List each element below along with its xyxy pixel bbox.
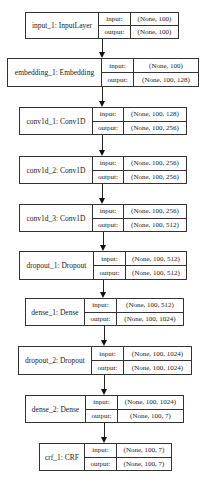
arrowhead-icon	[101, 340, 107, 346]
node-conv1d-1: conv1d_1: Conv1D input:(None, 100, 128) …	[19, 107, 187, 135]
arrowhead-icon	[99, 150, 105, 156]
output-label: output:	[93, 171, 124, 184]
output-label: output:	[85, 458, 117, 471]
output-shape: (None, 100, 512)	[124, 219, 186, 232]
input-shape: (None, 100)	[131, 13, 178, 25]
output-label: output:	[94, 266, 126, 279]
output-label: output:	[86, 410, 118, 423]
input-label: input:	[93, 205, 124, 218]
edge-line	[104, 423, 105, 437]
input-shape: (None, 100, 512)	[126, 252, 186, 265]
node-embedding-1: embedding_1: Embedding input:(None, 100)…	[7, 58, 199, 87]
input-label: input:	[93, 157, 124, 170]
input-label: input:	[92, 347, 124, 360]
node-dense-1: dense_1: Dense input:(None, 100, 512) ou…	[25, 298, 184, 326]
edge-line	[103, 280, 104, 292]
edge-line	[103, 232, 104, 245]
arrowhead-icon	[99, 101, 105, 107]
output-shape: (None, 100, 512)	[126, 266, 186, 279]
output-label: output:	[93, 122, 124, 135]
edge-line	[102, 184, 103, 198]
output-shape: (None, 100, 1024)	[124, 361, 191, 374]
input-shape: (None, 100, 128)	[124, 108, 186, 121]
edge-line	[102, 39, 103, 52]
output-shape: (None, 100, 1024)	[117, 313, 183, 326]
input-label: input:	[99, 13, 131, 25]
node-name: conv1d_1: Conv1D	[20, 108, 93, 134]
output-label: output:	[93, 219, 124, 232]
input-label: input:	[85, 444, 117, 457]
arrowhead-icon	[99, 198, 105, 204]
node-crf-1: crf_1: CRF input:(None, 100, 7) output:(…	[39, 443, 172, 471]
node-name: dense_2: Dense	[26, 396, 86, 422]
node-conv1d-3: conv1d_3: Conv1D input:(None, 100, 256) …	[19, 204, 187, 232]
output-label: output:	[99, 26, 131, 38]
input-shape: (None, 100, 256)	[124, 205, 186, 218]
node-name: input_1: InputLayer	[26, 13, 99, 38]
output-shape: (None, 100, 7)	[118, 410, 183, 423]
arrowhead-icon	[101, 389, 107, 395]
node-name: conv1d_3: Conv1D	[20, 205, 93, 231]
output-shape: (None, 100, 256)	[124, 171, 186, 184]
input-shape: (None, 100, 7)	[117, 444, 171, 457]
node-name: embedding_1: Embedding	[8, 59, 102, 86]
node-dense-2: dense_2: Dense input:(None, 100, 1024) o…	[25, 395, 184, 423]
node-name: dropout_2: Dropout	[19, 347, 92, 374]
input-label: input:	[85, 299, 117, 312]
node-dropout-1: dropout_1: Dropout input:(None, 100, 512…	[19, 251, 187, 280]
output-shape: (None, 100, 256)	[124, 122, 186, 135]
input-shape: (None, 100, 1024)	[124, 347, 191, 360]
node-name: dense_1: Dense	[26, 299, 85, 325]
node-dropout-2: dropout_2: Dropout input:(None, 100, 102…	[18, 346, 192, 375]
input-shape: (None, 100, 1024)	[118, 396, 183, 409]
edge-line	[104, 375, 105, 389]
input-label: input:	[93, 108, 124, 121]
input-shape: (None, 100, 512)	[117, 299, 183, 312]
output-label: output:	[85, 313, 117, 326]
node-conv1d-2: conv1d_2: Conv1D input:(None, 100, 256) …	[19, 156, 187, 184]
node-name: conv1d_2: Conv1D	[20, 157, 93, 183]
output-label: output:	[92, 361, 124, 374]
input-label: input:	[102, 59, 134, 72]
input-label: input:	[86, 396, 118, 409]
input-shape: (None, 100)	[134, 59, 198, 72]
output-shape: (None, 100, 128)	[134, 73, 198, 86]
node-name: dropout_1: Dropout	[20, 252, 94, 279]
arrowhead-icon	[100, 292, 106, 298]
input-shape: (None, 100, 256)	[124, 157, 186, 170]
output-shape: (None, 100, 7)	[117, 458, 171, 471]
node-name: crf_1: CRF	[40, 444, 85, 470]
arrowhead-icon	[99, 52, 105, 58]
output-label: output:	[102, 73, 134, 86]
input-label: input:	[94, 252, 126, 265]
output-shape: (None, 100)	[131, 26, 178, 38]
edge-line	[104, 326, 105, 340]
edge-line	[102, 87, 103, 101]
node-input-1: input_1: InputLayer input:(None, 100) ou…	[25, 12, 179, 39]
arrowhead-icon	[101, 437, 107, 443]
edge-line	[102, 135, 103, 150]
arrowhead-icon	[100, 245, 106, 251]
